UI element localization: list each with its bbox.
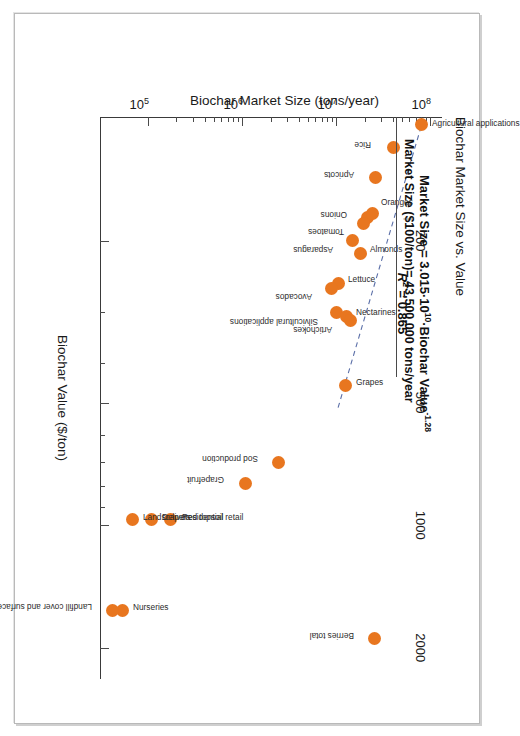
data-point-label: Avocados xyxy=(276,292,312,302)
plot-area: 20050010002000108107106105RiceAgricultur… xyxy=(100,117,442,679)
y-axis-minor-tick xyxy=(214,117,215,122)
x-axis-major-tick xyxy=(100,525,109,526)
x-axis-minor-tick xyxy=(100,434,105,435)
y-axis-minor-tick xyxy=(332,117,333,122)
x-axis-minor-tick xyxy=(100,312,105,313)
y-axis-minor-tick xyxy=(193,117,194,122)
y-axis-minor-tick xyxy=(233,117,234,122)
y-axis-minor-tick xyxy=(409,117,410,122)
y-axis-minor-tick xyxy=(322,117,323,122)
y-axis-minor-tick xyxy=(299,117,300,122)
x-axis-major-tick xyxy=(100,647,109,648)
data-point-label: Grapes xyxy=(356,376,383,386)
data-point-label: Apricots xyxy=(325,169,355,179)
data-point-label: Artichokes xyxy=(294,324,333,334)
y-axis-minor-tick xyxy=(308,117,309,122)
document-frame: Biochar Market Size vs. Value Market Siz… xyxy=(14,13,480,724)
data-point-label: Agricultural applications xyxy=(432,117,520,127)
x-axis-minor-tick xyxy=(100,506,105,507)
y-axis-minor-tick xyxy=(365,117,366,122)
x-axis-minor-tick xyxy=(100,485,105,486)
data-point-label: Nectarines xyxy=(356,307,396,317)
x-axis-tick-label: 1000 xyxy=(413,510,428,539)
rotated-figure-wrapper: Biochar Market Size vs. Value Market Siz… xyxy=(24,25,470,713)
data-point-label: Rice xyxy=(354,140,371,150)
data-point-label: Grapefruit xyxy=(187,475,224,485)
y-axis-minor-tick xyxy=(221,117,222,122)
y-axis-minor-tick xyxy=(393,117,394,122)
data-point[interactable] xyxy=(344,314,357,327)
y-axis-major-tick xyxy=(148,117,149,126)
y-axis-minor-tick xyxy=(287,117,288,122)
data-point[interactable] xyxy=(325,281,338,294)
data-point[interactable] xyxy=(369,171,382,184)
y-axis-minor-tick xyxy=(205,117,206,122)
data-point[interactable] xyxy=(239,476,252,489)
y-axis-title: Biochar Market Size (tons/year) xyxy=(114,92,456,107)
data-point-label: Tomatoes xyxy=(308,226,344,236)
x-axis-major-tick xyxy=(100,240,109,241)
data-point-label: Lettuce xyxy=(348,273,375,283)
data-point-label: Sod production xyxy=(202,454,258,464)
data-point-label: Landscapers xyxy=(143,511,191,521)
x-axis-tick-label: 2000 xyxy=(413,633,428,662)
data-point[interactable] xyxy=(415,118,428,131)
market-size-callout-line xyxy=(396,117,397,377)
x-axis-minor-tick xyxy=(100,363,105,364)
data-point-label: Almonds xyxy=(370,244,402,254)
y-axis-minor-tick xyxy=(315,117,316,122)
y-axis-minor-tick xyxy=(238,117,239,122)
y-axis-minor-tick xyxy=(228,117,229,122)
y-axis-minor-tick xyxy=(327,117,328,122)
data-point-label: Landfill cover and surface mine reclamat… xyxy=(0,602,92,612)
figure: Biochar Market Size vs. Value Market Siz… xyxy=(24,25,470,713)
data-point[interactable] xyxy=(368,632,381,645)
data-point-label: Berries total xyxy=(309,630,353,640)
x-axis-title: Biochar Value ($/ton) xyxy=(55,117,70,679)
y-axis-minor-tick xyxy=(176,117,177,122)
y-axis-major-tick xyxy=(336,117,337,126)
chart-title: Biochar Market Size vs. Value xyxy=(453,117,468,296)
x-axis-major-tick xyxy=(100,402,109,403)
y-axis-minor-tick xyxy=(381,117,382,122)
data-point[interactable] xyxy=(366,207,379,220)
data-point-label: Asparagus xyxy=(294,244,334,254)
data-point[interactable] xyxy=(106,603,119,616)
data-point-label: Nurseries xyxy=(133,602,169,612)
data-point[interactable] xyxy=(346,234,359,247)
y-axis-minor-tick xyxy=(271,117,272,122)
data-point-label: Onions xyxy=(320,209,346,219)
y-axis-major-tick xyxy=(242,117,243,126)
y-axis-minor-tick xyxy=(402,117,403,122)
data-point[interactable] xyxy=(126,513,139,526)
data-point[interactable] xyxy=(354,246,367,259)
x-axis-minor-tick xyxy=(100,462,105,463)
market-size-callout: Market Size ($100/ton)= 43,500,000 tons/… xyxy=(402,139,416,403)
